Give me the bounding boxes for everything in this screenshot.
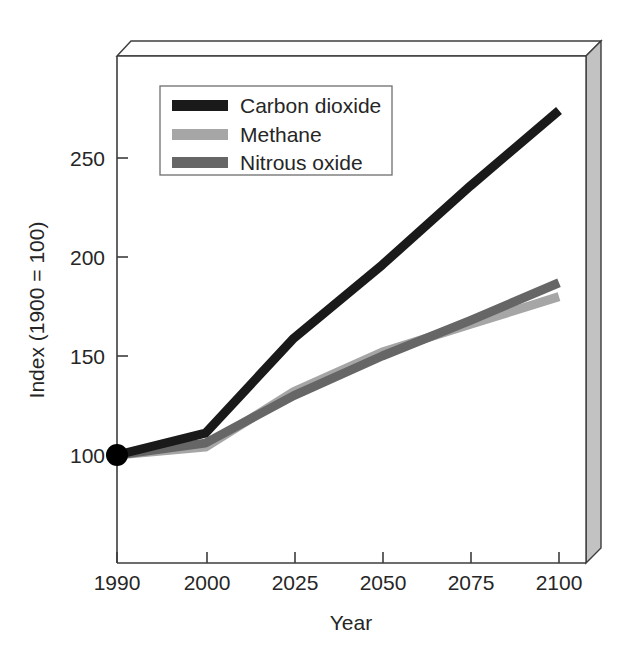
y-tick-label-250: 250 [70, 147, 105, 170]
x-axis-title: Year [330, 611, 372, 634]
x-tick-label-2000: 2000 [184, 571, 231, 594]
chart-figure: 250 200 150 100 1990 2000 2025 2050 2075… [0, 0, 630, 653]
x-tick-label-2075: 2075 [448, 571, 495, 594]
x-tick-label-1990: 1990 [94, 571, 141, 594]
origin-data-point-marker [106, 444, 128, 466]
legend-swatch-carbon-dioxide [172, 100, 228, 111]
x-tick-label-2025: 2025 [272, 571, 319, 594]
frame-top-face [117, 41, 601, 56]
legend-label-methane: Methane [240, 123, 322, 146]
legend-swatch-nitrous-oxide [172, 157, 228, 168]
line-chart: 250 200 150 100 1990 2000 2025 2050 2075… [0, 0, 630, 653]
chart-legend: Carbon dioxide Methane Nitrous oxide [160, 86, 392, 175]
y-tick-label-100: 100 [70, 444, 105, 467]
legend-label-nitrous-oxide: Nitrous oxide [240, 151, 363, 174]
frame-right-face [586, 41, 601, 563]
y-axis-title: Index (1900 = 100) [25, 222, 48, 399]
legend-label-carbon-dioxide: Carbon dioxide [240, 94, 381, 117]
x-tick-label-2100: 2100 [536, 571, 583, 594]
legend-swatch-methane [172, 129, 228, 140]
x-tick-label-2050: 2050 [360, 571, 407, 594]
y-tick-label-150: 150 [70, 345, 105, 368]
y-tick-label-200: 200 [70, 246, 105, 269]
